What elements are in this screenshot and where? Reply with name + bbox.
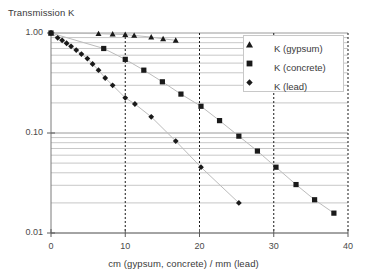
x-tick-label: 30 xyxy=(259,241,289,251)
data-point-square xyxy=(123,57,128,62)
x-tick-label: 10 xyxy=(110,241,140,251)
data-point-square xyxy=(255,148,260,153)
data-point-square xyxy=(217,118,222,123)
series-line-diamond xyxy=(51,33,239,203)
y-tick-label: 0.10 xyxy=(11,127,43,137)
data-point-square xyxy=(178,91,183,96)
legend-label-gypsum: K (gypsum) xyxy=(274,43,323,54)
data-point-square xyxy=(331,211,336,216)
x-tick-label: 20 xyxy=(185,241,215,251)
data-point-square xyxy=(101,46,106,51)
data-point-square xyxy=(293,182,298,187)
legend-label-lead: K (lead) xyxy=(274,81,307,92)
x-axis-title: cm (gypsum, concrete) / mm (lead) xyxy=(0,258,367,269)
data-point-square xyxy=(160,79,165,84)
legend-label-concrete: K (concrete) xyxy=(274,62,326,73)
x-tick-label: 40 xyxy=(333,241,363,251)
legend-item-lead: K (lead) xyxy=(244,77,345,96)
legend-item-gypsum: K (gypsum) xyxy=(244,39,345,58)
legend-item-concrete: K (concrete) xyxy=(244,58,345,77)
data-point-square xyxy=(198,104,203,109)
data-point-square xyxy=(273,165,278,170)
y-tick-label: 1.00 xyxy=(11,27,43,37)
data-point-square xyxy=(141,68,146,73)
y-tick-label: 0.01 xyxy=(11,227,43,237)
chart-legend: K (gypsum) K (concrete) K (lead) xyxy=(243,35,344,92)
data-point-square xyxy=(312,197,317,202)
data-point-square xyxy=(236,134,241,139)
chart-container: Transmission K 1.000.100.01 010203040 K … xyxy=(0,0,367,279)
x-tick-label: 0 xyxy=(36,241,66,251)
